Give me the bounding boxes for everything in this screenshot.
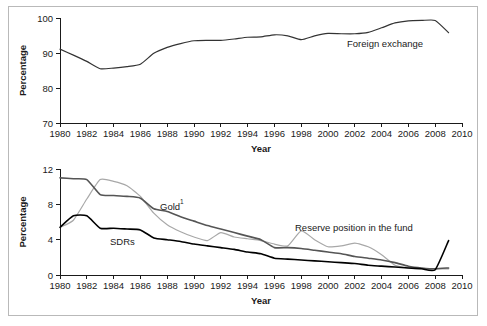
top-line-chart: 7080901001980198219841986198819901992199… (0, 0, 487, 160)
x-tick-label: 1994 (237, 128, 258, 139)
x-tick-label: 2004 (371, 280, 392, 291)
x-tick-label: 2000 (317, 280, 338, 291)
x-tick-label: 1988 (157, 280, 178, 291)
x-tick-label: 1996 (264, 128, 285, 139)
figure-container: 7080901001980198219841986198819901992199… (0, 0, 487, 326)
y-tick-label: 12 (42, 164, 53, 175)
x-tick-label: 1980 (49, 280, 70, 291)
x-tick-label: 2010 (451, 128, 472, 139)
x-tick-label: 1984 (103, 280, 124, 291)
x-tick-label: 2006 (398, 280, 419, 291)
y-tick-label: 70 (42, 118, 53, 129)
series-label-sdrs: SDRs (110, 236, 135, 247)
x-tick-label: 1998 (291, 280, 312, 291)
x-tick-label: 1980 (49, 128, 70, 139)
x-axis-title: Year (251, 295, 271, 306)
x-tick-label: 1986 (130, 280, 151, 291)
x-tick-label: 2008 (425, 280, 446, 291)
series-label-gold: Gold1 (160, 198, 184, 213)
x-tick-label: 1986 (130, 128, 151, 139)
y-axis-title: Percentage (17, 196, 28, 247)
x-tick-label: 1992 (210, 280, 231, 291)
series-label-superscript: 1 (180, 198, 184, 205)
x-tick-label: 1990 (183, 128, 204, 139)
x-tick-label: 1984 (103, 128, 124, 139)
chart-panel-bottom: 0481219801982198419861988199019921994199… (0, 158, 487, 326)
x-tick-label: 2002 (344, 128, 365, 139)
y-axis-title: Percentage (17, 45, 28, 96)
x-tick-label: 1996 (264, 280, 285, 291)
x-tick-label: 2006 (398, 128, 419, 139)
x-tick-label: 1982 (76, 280, 97, 291)
y-tick-label: 4 (48, 234, 53, 245)
y-tick-label: 8 (48, 199, 53, 210)
x-tick-label: 1988 (157, 128, 178, 139)
y-tick-label: 80 (42, 83, 53, 94)
x-tick-label: 2010 (451, 280, 472, 291)
x-tick-label: 2002 (344, 280, 365, 291)
series-label-reserve-position-in-the-fund: Reserve position in the fund (295, 222, 413, 233)
x-tick-label: 1992 (210, 128, 231, 139)
x-tick-label: 1998 (291, 128, 312, 139)
x-tick-label: 2004 (371, 128, 392, 139)
bottom-line-chart: 0481219801982198419861988199019921994199… (0, 158, 487, 326)
x-tick-label: 1982 (76, 128, 97, 139)
y-tick-label: 90 (42, 48, 53, 59)
x-tick-label: 1994 (237, 280, 258, 291)
y-tick-label: 0 (48, 270, 53, 281)
series-label-foreign-exchange: Foreign exchange (347, 38, 423, 49)
x-tick-label: 1990 (183, 280, 204, 291)
x-tick-label: 2008 (425, 128, 446, 139)
x-axis-title: Year (251, 143, 271, 154)
y-tick-label: 100 (37, 13, 53, 24)
chart-panel-top: 7080901001980198219841986198819901992199… (0, 0, 487, 160)
x-tick-label: 2000 (317, 128, 338, 139)
